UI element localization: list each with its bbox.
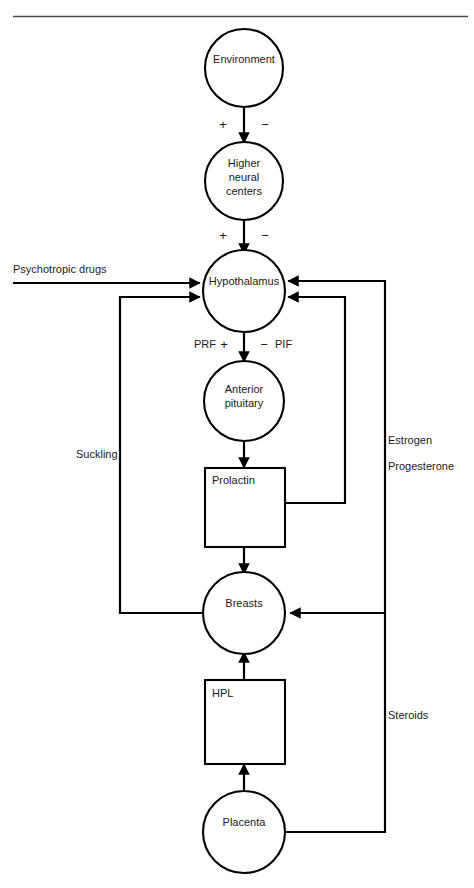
hypothalamus-circle [203,250,285,332]
figure-canvas: Environment Higher neural centers Hypoth… [0,0,474,888]
breasts-label: Breasts [225,597,263,609]
pif-label: PIF [275,338,292,350]
hpl-label: HPL [212,687,233,699]
higher-neural-centers-label-line3: centers [226,185,263,197]
sign-environment-plus: + [219,117,227,132]
node-higher-neural-centers[interactable]: Higher neural centers [205,142,283,220]
prf-label: PRF [194,338,216,350]
node-hpl[interactable]: HPL [205,680,285,764]
node-anterior-pituitary[interactable]: Anterior pituitary [204,361,284,441]
breasts-circle [203,572,285,654]
node-hypothalamus[interactable]: Hypothalamus [203,250,285,332]
higher-neural-centers-label-line2: neural [229,171,260,183]
hypothalamus-label: Hypothalamus [209,275,280,287]
environment-label: Environment [213,53,275,65]
node-environment[interactable]: Environment [205,29,283,107]
node-placenta[interactable]: Placenta [203,791,285,873]
prolactin-label: Prolactin [212,474,255,486]
steroids-label: Steroids [388,709,429,721]
node-prolactin[interactable]: Prolactin [205,468,285,547]
prolactin-regulation-diagram: Environment Higher neural centers Hypoth… [0,0,474,888]
placenta-circle [203,791,285,873]
progesterone-label: Progesterone [388,460,454,472]
sign-pif-minus: − [260,337,268,352]
higher-neural-centers-label-line1: Higher [228,157,261,169]
anterior-pituitary-label-line1: Anterior [225,383,264,395]
edge-placenta-steroids-to-hypothalamus [285,281,385,832]
sign-higher-neural-centers-plus: + [219,228,227,243]
psychotropic-drugs-label: Psychotropic drugs [13,263,107,275]
environment-circle [205,29,283,107]
estrogen-label: Estrogen [388,434,432,446]
node-breasts[interactable]: Breasts [203,572,285,654]
sign-environment-minus: − [261,117,269,132]
edge-prolactin-feedback-to-hypothalamus [285,297,345,503]
suckling-label: Suckling [76,448,118,460]
edge-suckling-breasts-to-hypothalamus [120,297,205,613]
anterior-pituitary-label-line2: pituitary [225,397,264,409]
sign-higher-neural-centers-minus: − [261,228,269,243]
placenta-label: Placenta [223,816,267,828]
sign-prf-plus: + [220,337,228,352]
